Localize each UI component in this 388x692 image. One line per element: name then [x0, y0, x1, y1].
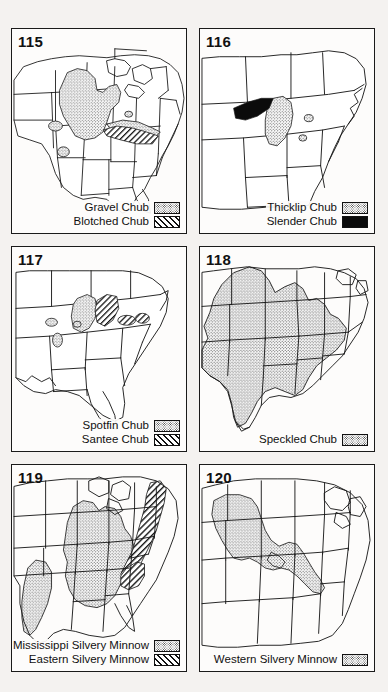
map-svg: [200, 465, 374, 671]
legend-item[interactable]: Santee Chub: [81, 433, 181, 446]
legend-swatch-stipple-icon: [154, 202, 180, 214]
legend-swatch-stipple-icon: [154, 640, 180, 652]
map-panel-grid: 115: [11, 28, 375, 672]
legend-swatch-hatch-icon: [154, 216, 180, 228]
map-panel-115[interactable]: 115: [11, 28, 187, 234]
panel-number: 116: [206, 33, 231, 50]
legend-item[interactable]: Western Silvery Minnow: [213, 653, 369, 666]
legend-116: Thicklip Chub Slender Chub: [266, 201, 369, 228]
panel-number: 120: [206, 469, 232, 486]
legend-label: Slender Chub: [267, 215, 337, 228]
legend-label: Blotched Chub: [74, 215, 149, 228]
panel-number: 119: [18, 469, 43, 486]
legend-label: Western Silvery Minnow: [214, 653, 337, 666]
legend-item[interactable]: Gravel Chub: [83, 201, 181, 214]
map-panel-118[interactable]: 118: [199, 246, 375, 452]
panel-number: 118: [206, 251, 231, 268]
legend-label: Spotfin Chub: [83, 419, 150, 432]
legend-swatch-stipple-icon: [342, 654, 368, 666]
legend-117: Spotfin Chub Santee Chub: [81, 419, 181, 446]
legend-swatch-hatch-icon: [154, 654, 180, 666]
legend-item[interactable]: Thicklip Chub: [266, 201, 369, 214]
map-panel-120[interactable]: 120: [199, 464, 375, 672]
legend-item[interactable]: Slender Chub: [266, 215, 369, 228]
legend-item[interactable]: Blotched Chub: [73, 215, 181, 228]
legend-120: Western Silvery Minnow: [213, 653, 369, 666]
map-panel-119[interactable]: 119: [11, 464, 187, 672]
legend-label: Speckled Chub: [259, 433, 337, 446]
panel-number: 115: [18, 33, 43, 50]
legend-119: Mississippi Silvery Minnow Eastern Silve…: [12, 639, 181, 666]
figure-page: 115: [0, 0, 388, 692]
legend-item[interactable]: Eastern Silvery Minnow: [28, 653, 181, 666]
legend-label: Thicklip Chub: [267, 201, 337, 214]
legend-label: Eastern Silvery Minnow: [29, 653, 149, 666]
legend-118: Speckled Chub: [258, 433, 369, 446]
panel-number: 117: [18, 251, 43, 268]
legend-item[interactable]: Spotfin Chub: [82, 419, 182, 432]
legend-label: Mississippi Silvery Minnow: [13, 639, 149, 652]
legend-swatch-solid-icon: [342, 216, 368, 228]
map-svg: [200, 247, 374, 451]
legend-115: Gravel Chub Blotched Chub: [73, 201, 181, 228]
legend-swatch-stipple-icon: [342, 202, 368, 214]
legend-label: Gravel Chub: [84, 201, 149, 214]
range-map-120: [200, 465, 374, 671]
legend-item[interactable]: Mississippi Silvery Minnow: [12, 639, 181, 652]
legend-swatch-hatch-icon: [154, 434, 180, 446]
map-panel-117[interactable]: 117: [11, 246, 187, 452]
map-panel-116[interactable]: 116: [199, 28, 375, 234]
range-map-118: [200, 247, 374, 451]
legend-item[interactable]: Speckled Chub: [258, 433, 369, 446]
legend-label: Santee Chub: [82, 433, 149, 446]
legend-swatch-stipple-icon: [342, 434, 368, 446]
legend-swatch-stipple-icon: [154, 420, 180, 432]
